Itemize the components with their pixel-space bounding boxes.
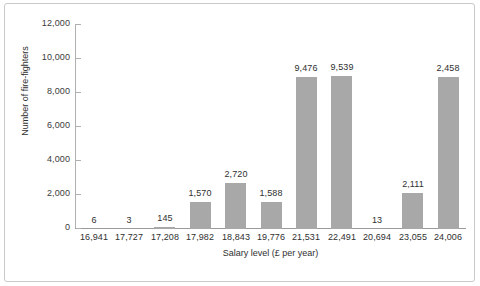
bar-value-label: 2,720	[206, 169, 266, 179]
bar-value-label: 145	[135, 213, 195, 223]
bar	[296, 77, 317, 229]
bar-value-label: 2,111	[383, 179, 443, 189]
bar-value-label: 2,458	[418, 63, 478, 73]
y-axis-tick-label: 12,000	[14, 18, 70, 28]
bar	[261, 202, 282, 229]
bar	[331, 76, 352, 229]
x-axis-title: Salary level (£ per year)	[75, 248, 466, 258]
y-axis-tick-label: 6,000	[14, 120, 70, 130]
bar	[438, 77, 459, 229]
y-axis-tick-label: 10,000	[14, 52, 70, 62]
bar-value-label: 13	[347, 215, 407, 225]
y-axis-tick-label: 0	[14, 222, 70, 232]
chart-figure: Number of fire-fighters 02,0004,0006,000…	[0, 0, 480, 286]
y-axis-tick-label: 8,000	[14, 86, 70, 96]
bar	[154, 227, 175, 229]
y-axis-tick-label: 4,000	[14, 154, 70, 164]
bar-value-label: 1,570	[170, 188, 230, 198]
bar-value-label: 1,588	[241, 188, 301, 198]
bar-value-label: 9,539	[312, 62, 372, 72]
y-axis-labels: 02,0004,0006,0008,00010,00012,000	[10, 0, 70, 286]
x-axis-tick-label: 24,006	[423, 232, 473, 242]
bar-series	[76, 24, 466, 229]
y-axis-tick-label: 2,000	[14, 188, 70, 198]
